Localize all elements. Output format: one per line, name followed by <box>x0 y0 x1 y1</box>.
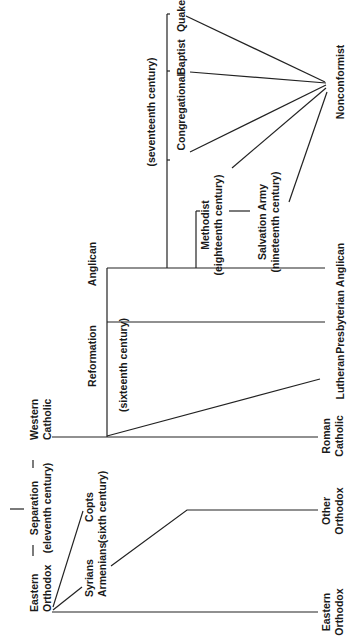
svg-text:(sixth century): (sixth century) <box>96 471 108 543</box>
svg-text:Armenians: Armenians <box>96 543 108 597</box>
sixteenth-century-label: (sixteenth century) <box>117 318 129 412</box>
salvation-army-to-nonconformist <box>289 92 327 202</box>
lutheran-branch <box>107 379 320 436</box>
svg-text:Orthodox: Orthodox <box>333 588 345 635</box>
svg-text:Presbyterian: Presbyterian <box>334 290 346 354</box>
svg-text:Lutheran: Lutheran <box>334 355 346 400</box>
svg-text:Eastern: Eastern <box>28 573 40 612</box>
leaf-lutheran: Lutheran <box>334 355 346 400</box>
anglican-top-label: Anglican <box>86 242 98 286</box>
quaker-label: Quaker <box>175 0 187 32</box>
svg-text:(eighteenth century): (eighteenth century) <box>212 175 224 276</box>
svg-text:Catholic: Catholic <box>333 415 345 457</box>
western-catholic-label: Western Catholic <box>28 398 53 440</box>
seventeenth-century-label: (seventeenth century) <box>145 57 157 166</box>
methodist-to-nonconformist <box>232 88 326 168</box>
svg-text:(eleventh century): (eleventh century) <box>41 463 53 553</box>
copts-branch <box>53 511 83 607</box>
svg-text:Nonconformist: Nonconformist <box>334 44 346 119</box>
leaf-roman-catholic: Roman Catholic <box>320 415 345 457</box>
baptist-label: Baptist <box>175 39 187 75</box>
nonconformist-label: Nonconformist <box>334 44 346 119</box>
svg-text:Reformation: Reformation <box>86 325 98 387</box>
leaf-other-orthodox: Other Orthodox <box>320 487 345 534</box>
svg-text:Separation: Separation <box>28 481 40 535</box>
svg-text:Baptist: Baptist <box>175 39 187 75</box>
svg-text:Catholic: Catholic <box>41 398 53 440</box>
svg-text:Orthodox: Orthodox <box>41 565 53 612</box>
svg-text:Other: Other <box>320 497 332 525</box>
leaf-anglican: Anglican <box>334 243 346 287</box>
leaf-presbyterian: Presbyterian <box>334 290 346 354</box>
svg-text:Orthodox: Orthodox <box>333 487 345 534</box>
svg-text:Copts: Copts <box>83 492 95 522</box>
eastern-orthodox-root-label: Eastern Orthodox <box>28 565 53 612</box>
svg-text:(nineteenth century): (nineteenth century) <box>269 172 281 273</box>
leaf-eastern-orthodox: Eastern Orthodox <box>320 588 345 635</box>
svg-text:Anglican: Anglican <box>86 242 98 286</box>
svg-text:Syrians: Syrians <box>83 559 95 597</box>
denomination-tree-diagram: Eastern Orthodox Separation (eleventh ce… <box>0 0 352 639</box>
svg-text:Methodist: Methodist <box>199 200 211 250</box>
svg-text:Eastern: Eastern <box>320 593 332 632</box>
reformation-label: Reformation <box>86 325 98 387</box>
salvation-army-label: Salvation Army (nineteenth century) <box>256 172 281 273</box>
svg-text:Congregational: Congregational <box>175 73 187 150</box>
svg-text:(sixteenth century): (sixteenth century) <box>117 318 129 412</box>
congregational-to-nonconformist <box>190 85 326 152</box>
svg-text:Anglican: Anglican <box>334 243 346 287</box>
syrians-branch <box>53 587 82 610</box>
syrians-armenians-label: Syrians Armenians <box>83 543 108 597</box>
quaker-to-nonconformist <box>186 16 325 82</box>
copts-label: Copts (sixth century) <box>83 471 108 543</box>
other-orthodox-branch <box>111 510 318 566</box>
svg-text:Quaker: Quaker <box>175 0 187 32</box>
methodist-label: Methodist (eighteenth century) <box>199 175 224 276</box>
svg-text:(seventeenth century): (seventeenth century) <box>145 57 157 166</box>
congregational-label: Congregational <box>175 73 187 150</box>
svg-text:Western: Western <box>28 399 40 440</box>
baptist-to-nonconformist <box>190 72 326 83</box>
svg-text:Salvation Army: Salvation Army <box>256 184 268 260</box>
separation-label: Separation (eleventh century) <box>28 463 53 553</box>
svg-text:Roman: Roman <box>320 418 332 454</box>
